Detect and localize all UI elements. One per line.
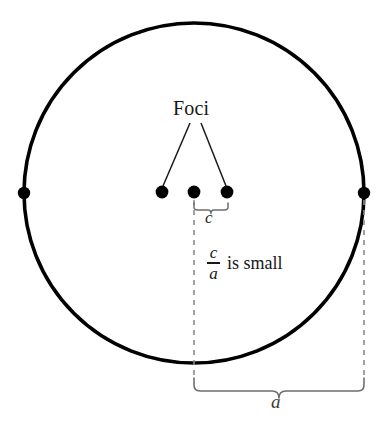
point-center (188, 186, 201, 199)
ellipse-eccentricity-figure: Foci c a c a is small (0, 0, 385, 431)
figure-canvas (0, 0, 385, 431)
point-focus-left (156, 186, 169, 199)
fraction-numerator: c (208, 244, 220, 261)
point-left-vertex (18, 187, 30, 199)
point-focus-right (221, 186, 234, 199)
foci-label: Foci (173, 98, 209, 118)
c-over-a-fraction: c a (207, 244, 220, 282)
eccentricity-statement: c a is small (207, 244, 283, 282)
foci-leader-left-line (163, 123, 190, 186)
point-right-vertex (358, 187, 370, 199)
c-label: c (205, 209, 213, 226)
ratio-description: is small (227, 253, 283, 274)
foci-leader-right-line (201, 123, 226, 186)
a-label: a (271, 392, 281, 411)
fraction-denominator: a (207, 265, 220, 282)
